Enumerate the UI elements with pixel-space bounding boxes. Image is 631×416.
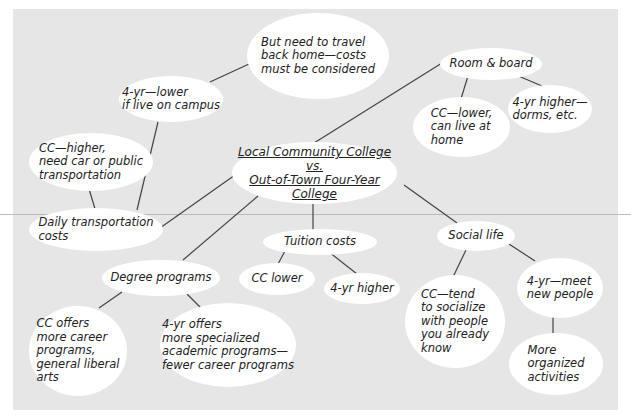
node-degree: Degree programs — [102, 260, 220, 296]
edge-social-4yrmeet — [509, 244, 535, 261]
edge-degree-ccoffers — [99, 292, 122, 308]
node-label: CC—lower, can live at home — [431, 107, 493, 148]
edge-4yrlower-travel — [210, 64, 249, 82]
node-daily-transport: Daily transportation costs — [29, 208, 163, 251]
node-label: CC—tend to socialize with people you alr… — [421, 288, 489, 356]
node-tuition: Tuition costs — [263, 229, 377, 255]
node-4yr-higher: 4-yr higher — [324, 273, 400, 304]
node-label: But need to travel back home—costs must … — [261, 36, 375, 77]
node-label: Degree programs — [110, 271, 211, 285]
node-label: CC—higher, need car or public transporta… — [39, 142, 143, 183]
node-label: 4-yr—meet new people — [527, 275, 593, 302]
node-label: 4-yr higher — [330, 282, 394, 296]
node-label: 4-yr—lower if live on campus — [122, 86, 220, 113]
edge-tuition-4yrhigher — [329, 252, 357, 274]
edge-center-daily — [160, 175, 235, 228]
node-label: Daily transportation costs — [39, 216, 154, 243]
node-cc-offers: CC offers more career programs, general … — [29, 306, 127, 396]
center-topic-label: Local Community College vs. Out-of-Town … — [232, 145, 397, 201]
node-4yr-meet: 4-yr—meet new people — [517, 258, 603, 318]
node-label: CC offers more career programs, general … — [36, 317, 119, 385]
node-cc-socialize: CC—tend to socialize with people you alr… — [405, 275, 505, 368]
node-label: 4-yr offers more specialized academic pr… — [162, 318, 294, 372]
node-4yr-dorms: 4-yr higher— dorms, etc. — [508, 85, 592, 133]
node-label: 4-yr higher— dorms, etc. — [512, 96, 587, 123]
edge-center-social — [404, 185, 457, 223]
edge-social-ccsocialize — [453, 250, 466, 277]
node-label: Room & board — [450, 57, 533, 71]
node-label: More organized activities — [527, 344, 584, 385]
node-label: Social life — [448, 229, 503, 243]
node-cc-lower: CC lower — [239, 263, 315, 295]
node-label: Tuition costs — [284, 235, 356, 249]
node-organized: More organized activities — [509, 333, 603, 395]
node-cc-higher: CC—higher, need car or public transporta… — [29, 133, 153, 191]
node-cc-lower-home: CC—lower, can live at home — [413, 97, 510, 157]
node-label: CC lower — [251, 272, 302, 286]
node-social: Social life — [437, 221, 515, 251]
node-4yr-lower: 4-yr—lower if live on campus — [119, 76, 223, 122]
node-room-board: Room & board — [440, 48, 542, 80]
node-4yr-offers: 4-yr offers more specialized academic pr… — [160, 303, 296, 387]
node-center-topic: Local Community College vs. Out-of-Town … — [232, 142, 397, 204]
node-travel-home: But need to travel back home—costs must … — [247, 13, 389, 99]
edge-center-degree — [183, 196, 258, 260]
